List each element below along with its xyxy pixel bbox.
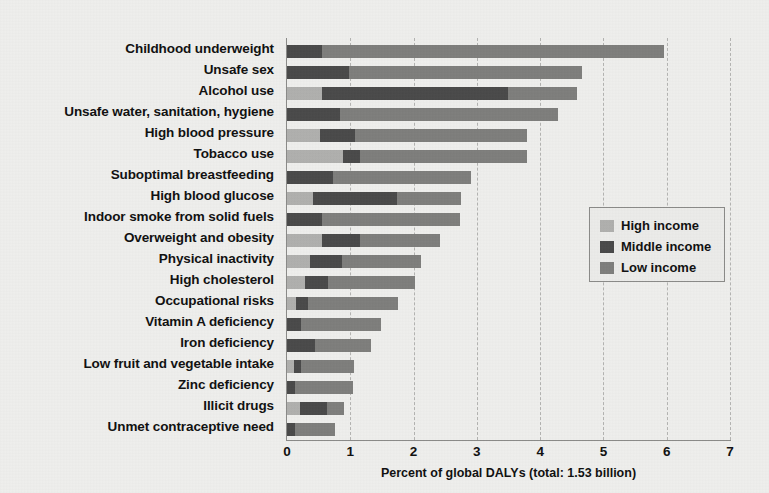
bar-segment xyxy=(287,276,305,289)
category-label: Illicit drugs xyxy=(0,395,281,416)
bar-segment xyxy=(287,66,349,79)
bar-segment xyxy=(287,108,340,121)
stacked-bar-chart: Childhood underweightUnsafe sexAlcohol u… xyxy=(0,0,769,493)
legend-label: Low income xyxy=(621,260,696,275)
bar-segment xyxy=(287,150,343,163)
legend-label: Middle income xyxy=(621,239,711,254)
category-label: Low fruit and vegetable intake xyxy=(0,353,281,374)
x-tick-label: 3 xyxy=(462,444,492,459)
legend-swatch-icon xyxy=(600,262,614,274)
bar-segment xyxy=(322,234,360,247)
bar-segment xyxy=(343,150,359,163)
bar-segment xyxy=(287,171,333,184)
bar-segment xyxy=(320,129,355,142)
bar-segment xyxy=(397,192,461,205)
x-axis-line xyxy=(286,440,731,441)
bar-segment xyxy=(305,276,328,289)
legend-swatch-icon xyxy=(600,220,614,232)
bar-segment xyxy=(287,318,301,331)
bar-segment xyxy=(349,66,582,79)
bar-segment xyxy=(301,318,381,331)
category-label: Occupational risks xyxy=(0,290,281,311)
bar-segment xyxy=(300,402,327,415)
x-tick-label: 1 xyxy=(335,444,365,459)
category-label: Overweight and obesity xyxy=(0,227,281,248)
category-label: Iron deficiency xyxy=(0,332,281,353)
legend: High incomeMiddle incomeLow income xyxy=(589,207,725,282)
bar-segment xyxy=(296,297,307,310)
category-label: Indoor smoke from solid fuels xyxy=(0,206,281,227)
bar-segment xyxy=(342,255,421,268)
bar-segment xyxy=(295,381,353,394)
bar-segment xyxy=(287,297,296,310)
bar-segment xyxy=(287,402,300,415)
category-label: Vitamin A deficiency xyxy=(0,311,281,332)
bar-segment xyxy=(295,423,335,436)
bar-segment xyxy=(287,45,322,58)
bar-segment xyxy=(287,192,313,205)
bar-segment xyxy=(287,87,322,100)
bar-segment xyxy=(287,423,295,436)
legend-swatch-icon xyxy=(600,241,614,253)
category-label: Tobacco use xyxy=(0,143,281,164)
category-label: Unsafe water, sanitation, hygiene xyxy=(0,101,281,122)
x-tick-label: 2 xyxy=(399,444,429,459)
category-label: High blood glucose xyxy=(0,185,281,206)
category-label: Physical inactivity xyxy=(0,248,281,269)
x-tick-label: 6 xyxy=(652,444,682,459)
x-axis-title: Percent of global DALYs (total: 1.53 bil… xyxy=(287,466,730,480)
x-tick-label: 7 xyxy=(715,444,745,459)
x-tick-label: 5 xyxy=(588,444,618,459)
legend-item: Low income xyxy=(600,257,724,278)
bar-segment xyxy=(322,87,508,100)
bar-segment xyxy=(294,360,301,373)
bar-segment xyxy=(315,339,371,352)
bar-segment xyxy=(287,360,294,373)
category-label: High cholesterol xyxy=(0,269,281,290)
category-label: Suboptimal breastfeeding xyxy=(0,164,281,185)
category-label: Childhood underweight xyxy=(0,38,281,59)
category-axis-labels: Childhood underweightUnsafe sexAlcohol u… xyxy=(0,38,281,437)
bar-segment xyxy=(327,402,344,415)
bar-segment xyxy=(308,297,398,310)
bar-segment xyxy=(287,234,322,247)
category-label: Unsafe sex xyxy=(0,59,281,80)
bar-segment xyxy=(333,171,470,184)
category-label: Alcohol use xyxy=(0,80,281,101)
bar-segment xyxy=(360,234,440,247)
bar-segment xyxy=(310,255,342,268)
bar-segment xyxy=(301,360,354,373)
bar-segment xyxy=(287,381,295,394)
bar-segment xyxy=(360,150,527,163)
category-label: High blood pressure xyxy=(0,122,281,143)
bar-segment xyxy=(340,108,558,121)
bar-segment xyxy=(287,339,315,352)
bar-segment xyxy=(313,192,397,205)
gridline xyxy=(730,38,731,440)
x-tick-label: 0 xyxy=(272,444,302,459)
bar-segment xyxy=(287,129,320,142)
bar-segment xyxy=(287,213,322,226)
bar-segment xyxy=(322,213,460,226)
legend-label: High income xyxy=(621,218,699,233)
legend-item: Middle income xyxy=(600,236,724,257)
legend-item: High income xyxy=(600,215,724,236)
bar-segment xyxy=(508,87,577,100)
x-tick-label: 4 xyxy=(525,444,555,459)
bar-segment xyxy=(322,45,664,58)
bar-segment xyxy=(328,276,415,289)
category-label: Zinc deficiency xyxy=(0,374,281,395)
category-label: Unmet contraceptive need xyxy=(0,416,281,437)
bar-segment xyxy=(355,129,527,142)
bar-segment xyxy=(287,255,310,268)
